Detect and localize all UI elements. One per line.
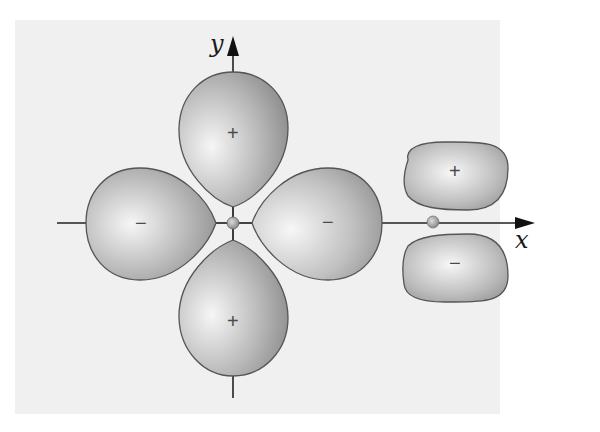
sign-left: −	[135, 212, 147, 234]
sign-bottom: +	[227, 310, 239, 332]
nucleus-d	[227, 217, 239, 229]
orbital-diagram: y x + + − − + −	[0, 0, 600, 432]
sign-p-lower: −	[449, 252, 461, 274]
x-axis-label: x	[515, 226, 529, 254]
diagram-svg: y x + + − − + −	[0, 0, 600, 432]
sign-right: −	[322, 211, 334, 233]
sign-top: +	[227, 122, 239, 144]
sign-p-upper: +	[449, 160, 461, 182]
y-axis-label: y	[209, 30, 224, 58]
nucleus-p	[427, 216, 439, 228]
